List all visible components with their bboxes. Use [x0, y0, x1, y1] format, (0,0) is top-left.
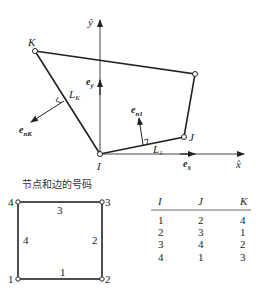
figure: ŷ x̂ I J K eŷ ex̂ en1 L1 enK LK 节点和边的号码: [0, 0, 264, 292]
cell: 1: [198, 251, 204, 263]
numbering-title: 节点和边的号码: [22, 178, 92, 190]
cell: 2: [240, 238, 246, 250]
cell: 1: [158, 214, 164, 226]
ey-label: eŷ: [86, 76, 94, 90]
cell: 1: [240, 226, 246, 238]
coordinate-axes: ŷ x̂: [87, 16, 244, 170]
label-J: J: [189, 131, 195, 143]
ex-label: ex̂: [183, 158, 191, 172]
connectivity-table: I J K 1 2 4 2 3 1 3 4 2 4 1 3: [151, 195, 251, 263]
node-third: [193, 72, 198, 77]
node-num-2: 2: [105, 273, 111, 285]
cell: 2: [158, 226, 164, 238]
node-num-3: 3: [105, 196, 111, 208]
cell: 3: [198, 226, 204, 238]
cell: 3: [240, 251, 246, 263]
edge-num-4: 4: [23, 234, 29, 246]
x-axis-label: x̂: [235, 158, 241, 170]
node-I: [98, 152, 103, 157]
edge-num-3: 3: [57, 204, 63, 216]
en1-label: en1: [131, 104, 143, 118]
node-num-4: 4: [8, 196, 14, 208]
cell: 4: [240, 214, 246, 226]
label-K: K: [27, 36, 36, 48]
LK-label: LK: [68, 88, 80, 102]
enK-label: enK: [19, 124, 33, 138]
label-I: I: [96, 160, 102, 172]
edge-num-1: 1: [60, 266, 66, 278]
node-num-1: 1: [8, 273, 14, 285]
numbering-square: 1 2 3 4 1 2 3 4: [8, 196, 111, 285]
header-I: I: [157, 195, 163, 207]
normal-nK: enK LK: [19, 88, 80, 138]
cell: 2: [198, 214, 204, 226]
edge-num-2: 2: [92, 234, 98, 246]
header-J: J: [198, 195, 204, 207]
y-axis-label: ŷ: [87, 16, 93, 28]
node-K: [33, 49, 38, 54]
quadrilateral-element: I J K: [27, 36, 198, 172]
cell: 4: [158, 251, 164, 263]
L1-label: L1: [152, 143, 163, 157]
cell: 3: [158, 238, 164, 250]
cell: 4: [198, 238, 204, 250]
normal-n1: en1 L1: [131, 104, 163, 157]
node-J: [182, 135, 187, 140]
header-K: K: [239, 195, 248, 207]
